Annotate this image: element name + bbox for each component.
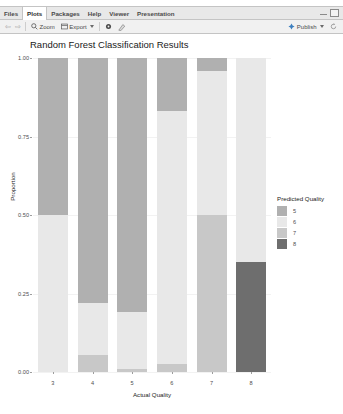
y-tick-mark [30, 58, 32, 59]
bar-segment-3-6 [38, 215, 68, 372]
x-tick-mark [132, 372, 133, 374]
y-axis-label: Proportion [9, 147, 16, 227]
bar-segment-8-6 [236, 58, 266, 262]
maximize-icon[interactable] [330, 9, 339, 17]
x-axis-label: Actual Quality [33, 391, 271, 398]
legend-item-6: 6 [277, 216, 341, 227]
x-tick-label-6: 6 [157, 380, 187, 386]
bar-6 [157, 58, 187, 372]
y-tick-mark [30, 215, 32, 216]
bar-7 [197, 58, 227, 372]
legend-label-6: 6 [293, 219, 296, 225]
minimize-icon[interactable] [320, 11, 327, 15]
y-tick-label: 0.00 [3, 369, 29, 375]
legend-label-8: 8 [293, 241, 296, 247]
legend-entries: 5678 [277, 205, 341, 249]
bar-5 [117, 58, 147, 372]
bar-segment-5-5 [117, 58, 147, 312]
bar-segment-4-5 [78, 58, 108, 303]
bar-segment-6-6 [157, 111, 187, 364]
tab-files[interactable]: Files [0, 7, 22, 20]
tab-presentation[interactable]: Presentation [133, 7, 178, 20]
legend-swatch-6 [277, 217, 287, 227]
legend-item-7: 7 [277, 227, 341, 238]
x-tick-mark [251, 372, 252, 374]
toolbar-divider [25, 22, 26, 31]
y-tick-label: 0.75 [3, 134, 29, 140]
legend-item-5: 5 [277, 205, 341, 216]
remove-plot-icon [105, 23, 112, 30]
pane-tabbar: Files Plots Packages Help Viewer Present… [0, 6, 343, 20]
legend-swatch-5 [277, 206, 287, 216]
rstudio-plots-pane: Files Plots Packages Help Viewer Present… [0, 0, 343, 414]
legend-title: Predicted Quality [277, 195, 341, 202]
tab-help[interactable]: Help [84, 7, 105, 20]
chart-title: Random Forest Classification Results [30, 39, 188, 50]
bar-segment-6-5 [157, 58, 187, 111]
plot-panel [33, 58, 271, 372]
y-tick-mark [30, 294, 32, 295]
y-tick-mark [30, 372, 32, 373]
publish-icon [288, 23, 295, 30]
x-tick-mark [212, 372, 213, 374]
zoom-button[interactable]: Zoom [28, 21, 58, 33]
pane-window-controls [320, 9, 343, 17]
bar-3 [38, 58, 68, 372]
x-tick-label-8: 8 [236, 380, 266, 386]
bar-segment-7-6 [197, 71, 227, 215]
export-icon [61, 23, 68, 30]
back-arrow-icon[interactable]: ⇦ [3, 23, 13, 31]
bar-8 [236, 58, 266, 372]
y-tick-label: 0.50 [3, 212, 29, 218]
export-button[interactable]: Export [58, 21, 97, 33]
legend: Predicted Quality 5678 [277, 195, 341, 249]
publish-button-label: Publish [297, 24, 317, 30]
bar-segment-4-6 [78, 303, 108, 355]
x-tick-label-7: 7 [197, 380, 227, 386]
plots-toolbar: ⇦ ⇨ Zoom Export [0, 20, 343, 34]
remove-plot-button[interactable] [102, 21, 115, 33]
bar-segment-8-8 [236, 262, 266, 372]
bar-segment-3-5 [38, 58, 68, 215]
plot-canvas: Random Forest Classification Results 0.0… [0, 35, 343, 414]
forward-arrow-icon[interactable]: ⇨ [13, 23, 23, 31]
export-button-label: Export [69, 24, 86, 30]
legend-swatch-8 [277, 239, 287, 249]
publish-button[interactable]: Publish [285, 21, 327, 33]
bar-segment-5-6 [117, 312, 147, 369]
toolbar-divider-2 [99, 22, 100, 31]
chevron-down-icon [90, 25, 94, 28]
bar-segment-6-7 [157, 364, 187, 372]
clear-all-plots-button[interactable] [115, 21, 129, 33]
tab-packages[interactable]: Packages [47, 7, 84, 20]
toolbar-right-group: Publish [285, 21, 343, 33]
legend-item-8: 8 [277, 238, 341, 249]
refresh-icon [330, 23, 337, 30]
x-tick-mark [93, 372, 94, 374]
legend-swatch-7 [277, 228, 287, 238]
bar-segment-4-7 [78, 355, 108, 372]
bar-segment-7-7 [197, 215, 227, 372]
zoom-button-label: Zoom [40, 24, 55, 30]
legend-label-5: 5 [293, 208, 296, 214]
legend-label-7: 7 [293, 230, 296, 236]
vertical-scrollbar[interactable] [339, 70, 343, 414]
y-tick-label: 0.25 [3, 291, 29, 297]
x-tick-mark [53, 372, 54, 374]
tab-viewer[interactable]: Viewer [105, 7, 133, 20]
bar-4 [78, 58, 108, 372]
gridline [33, 372, 271, 373]
y-tick-mark [30, 137, 32, 138]
x-tick-label-5: 5 [117, 380, 147, 386]
refresh-button[interactable] [327, 21, 340, 33]
magnifier-icon [31, 23, 38, 30]
x-tick-label-3: 3 [38, 380, 68, 386]
bar-segment-7-5 [197, 58, 227, 71]
tab-plots[interactable]: Plots [22, 7, 47, 20]
y-tick-label: 1.00 [3, 55, 29, 61]
x-tick-label-4: 4 [78, 380, 108, 386]
publish-chevron-down-icon [320, 25, 324, 28]
stacked-bars [33, 58, 271, 372]
clear-all-plots-icon [118, 23, 126, 31]
x-tick-mark [172, 372, 173, 374]
